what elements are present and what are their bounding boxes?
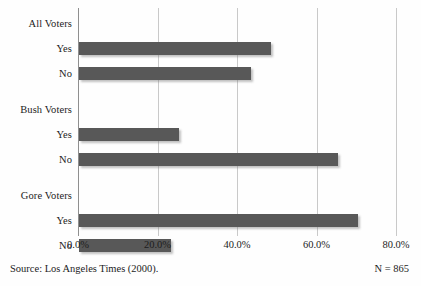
bar-label-gore-voters-yes: Yes	[56, 215, 72, 227]
bar-all-voters-no	[79, 67, 251, 80]
bar-label-bush-voters-yes: Yes	[56, 129, 72, 141]
gridline-60	[317, 8, 318, 236]
group-label-all-voters: All Voters	[29, 18, 73, 30]
group-label-gore-voters: Gore Voters	[21, 190, 72, 202]
plot-area	[78, 8, 396, 236]
category-label-column: All VotersYesNoBush VotersYesNoGore Vote…	[0, 8, 72, 236]
x-tick-label: 40.0%	[223, 238, 250, 252]
x-axis-tick-labels: 0.0%20.0%40.0%60.0%80.0%	[0, 238, 421, 254]
x-tick-label: 60.0%	[303, 238, 330, 252]
sample-size-note: N = 865	[374, 262, 409, 276]
gridline-80	[396, 8, 397, 236]
bar-gore-voters-yes	[79, 214, 358, 227]
bar-chart-figure: All VotersYesNoBush VotersYesNoGore Vote…	[0, 0, 421, 286]
bar-bush-voters-yes	[79, 128, 179, 141]
x-tick-label: 80.0%	[382, 238, 409, 252]
bar-label-bush-voters-no: No	[59, 154, 72, 166]
bar-label-all-voters-yes: Yes	[56, 43, 72, 55]
bar-label-all-voters-no: No	[59, 68, 72, 80]
source-note: Source: Los Angeles Times (2000).	[10, 262, 158, 276]
x-tick-label: 20.0%	[144, 238, 171, 252]
bar-all-voters-yes	[79, 42, 271, 55]
chart-footer: Source: Los Angeles Times (2000). N = 86…	[0, 262, 421, 282]
group-label-bush-voters: Bush Voters	[20, 104, 72, 116]
bar-bush-voters-no	[79, 153, 338, 166]
x-tick-label: 0.0%	[67, 238, 89, 252]
